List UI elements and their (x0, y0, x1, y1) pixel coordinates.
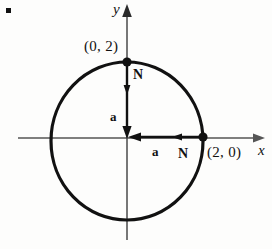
y-axis-arrowhead (122, 4, 132, 17)
normal-label-top: N (133, 68, 143, 82)
vector-n-right (172, 134, 201, 141)
vector-a-horizontal-arrowhead (128, 132, 141, 141)
vector-n-right-arrowhead (172, 134, 182, 141)
vector-n-top-arrowhead (124, 85, 131, 95)
vector-a-label-vertical: a (110, 110, 117, 123)
y-axis-label: y (113, 2, 120, 17)
point-marker-right (198, 132, 207, 141)
vector-a-label-horizontal: a (152, 145, 159, 158)
normal-label-right: N (178, 147, 188, 161)
vector-n-top (124, 64, 131, 95)
math-figure: (0, 2) (2, 0) N N a a x y (0, 0, 272, 249)
diagram-canvas (0, 0, 272, 249)
point-label-top: (0, 2) (84, 39, 118, 54)
point-label-right: (2, 0) (207, 145, 241, 160)
x-axis-label: x (258, 143, 265, 158)
point-marker-top (122, 57, 131, 66)
